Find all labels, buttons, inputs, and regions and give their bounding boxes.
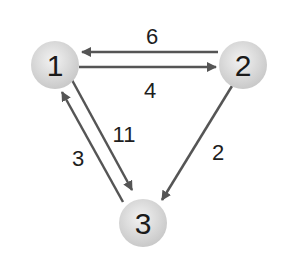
edge-1-to-2: 4 — [79, 67, 216, 103]
edge-3-to-1: 3 — [62, 92, 123, 202]
edge-weight-label: 11 — [113, 122, 136, 147]
edge-1-to-3: 11 — [72, 80, 135, 190]
edge-weight-label: 2 — [212, 140, 224, 165]
node-label: 3 — [135, 207, 152, 240]
node-label: 2 — [235, 49, 252, 82]
graph-svg: 6 4 11 3 2 1 2 3 — [0, 0, 283, 261]
graph-diagram: 6 4 11 3 2 1 2 3 — [0, 0, 283, 261]
node-2: 2 — [219, 41, 267, 89]
node-1: 1 — [31, 41, 79, 89]
edge-2-to-3: 2 — [162, 86, 232, 200]
edge-weight-label: 6 — [146, 24, 158, 49]
node-label: 1 — [47, 49, 64, 82]
edge-weight-label: 4 — [144, 78, 156, 103]
node-3: 3 — [119, 199, 167, 247]
edge-2-to-1: 6 — [82, 24, 218, 52]
edge-weight-label: 3 — [72, 146, 84, 171]
